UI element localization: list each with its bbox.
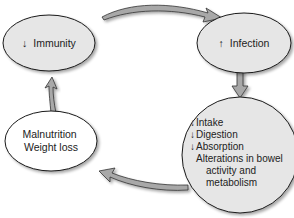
alterations-label: Alterations in bowel <box>196 153 283 164</box>
decrease-arrow-icon: ↓ <box>22 37 27 49</box>
decrease-arrow-icon: ↓ <box>190 129 195 140</box>
increase-arrow-icon: ↑ <box>219 37 224 49</box>
malnutrition-label: Malnutrition <box>22 128 76 140</box>
svg-text:↑ Infection: ↑ Infection <box>219 37 270 49</box>
arrow-malnutrition-to-immunity <box>45 77 57 113</box>
absorption-label: Absorption <box>196 141 244 152</box>
infection-label: Infection <box>230 37 270 49</box>
svg-text:↓ Immunity: ↓ Immunity <box>22 37 77 49</box>
digestion-label: Digestion <box>196 129 238 140</box>
metabolism-label: metabolism <box>206 177 257 188</box>
svg-text:Malnutrition Weight loss: Malnutrition Weight loss <box>22 128 79 153</box>
immunity-label: Immunity <box>33 37 76 49</box>
activity-label: activity and <box>206 165 256 176</box>
weight-loss-label: Weight loss <box>24 141 78 153</box>
arrow-gi-to-malnutrition <box>99 168 188 190</box>
intake-label: Intake <box>196 117 224 128</box>
node-malnutrition: Malnutrition Weight loss <box>5 111 97 171</box>
decrease-arrow-icon: ↓ <box>190 117 195 128</box>
decrease-arrow-icon: ↓ <box>190 141 195 152</box>
cycle-diagram: ↓ Immunity ↑ Infection ↓ Intake ↓ Digest… <box>0 0 294 218</box>
node-infection: ↑ Infection <box>197 13 291 73</box>
arrow-immunity-to-infection <box>102 5 222 22</box>
node-gi-effects: ↓ Intake ↓ Digestion ↓ Absorption Altera… <box>182 97 294 213</box>
node-immunity: ↓ Immunity <box>3 15 95 71</box>
arrow-infection-to-gi <box>232 71 248 98</box>
